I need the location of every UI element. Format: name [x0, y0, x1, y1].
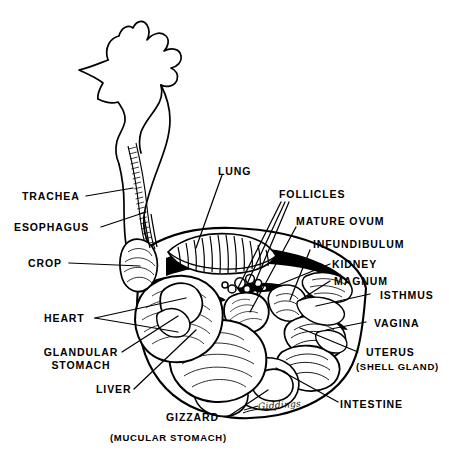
label-gizzard: GIZZARD [166, 411, 219, 424]
label-kidney: KIDNEY [332, 258, 377, 271]
leader-trachea [86, 188, 133, 196]
label-glandular-stomach-line2: STOMACH [51, 359, 110, 371]
trachea-structure [128, 143, 155, 250]
label-isthmus: ISTHMUS [380, 289, 434, 302]
label-uterus: UTERUS [366, 346, 415, 359]
label-crop: CROP [28, 257, 62, 270]
label-heart: HEART [44, 312, 85, 325]
label-magnum: MAGNUM [334, 275, 388, 288]
label-glandular-stomach-line1: GLANDULAR [44, 346, 119, 358]
label-vagina: VAGINA [374, 317, 419, 330]
label-lung: LUNG [218, 165, 251, 178]
label-infundibulum: INFUNDIBULUM [313, 238, 404, 251]
label-trachea: TRACHEA [22, 190, 80, 203]
label-uterus-shell-gland: (SHELL GLAND) [356, 360, 439, 373]
label-gizzard-muscular-stomach: (MUCULAR STOMACH) [110, 431, 227, 444]
label-intestine: INTESTINE [340, 398, 403, 411]
label-liver: LIVER [96, 383, 131, 396]
label-follicles: FOLLICLES [279, 188, 345, 201]
label-mature-ovum: MATURE OVUM [296, 215, 384, 228]
label-glandular-stomach: GLANDULAR STOMACH [38, 346, 124, 372]
poultry-anatomy-figure: TRACHEA ESOPHAGUS CROP HEART GLANDULAR S… [0, 0, 449, 454]
label-esophagus: ESOPHAGUS [14, 221, 89, 234]
